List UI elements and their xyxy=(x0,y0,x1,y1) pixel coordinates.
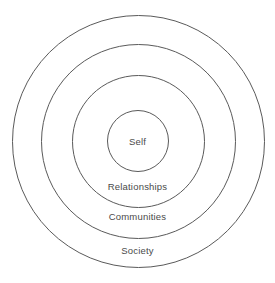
label-relationships: Relationships xyxy=(0,182,275,192)
label-communities: Communities xyxy=(0,212,275,222)
label-society: Society xyxy=(0,246,275,256)
concentric-circles-diagram: Self Relationships Communities Society xyxy=(0,0,275,283)
label-self: Self xyxy=(0,137,275,147)
